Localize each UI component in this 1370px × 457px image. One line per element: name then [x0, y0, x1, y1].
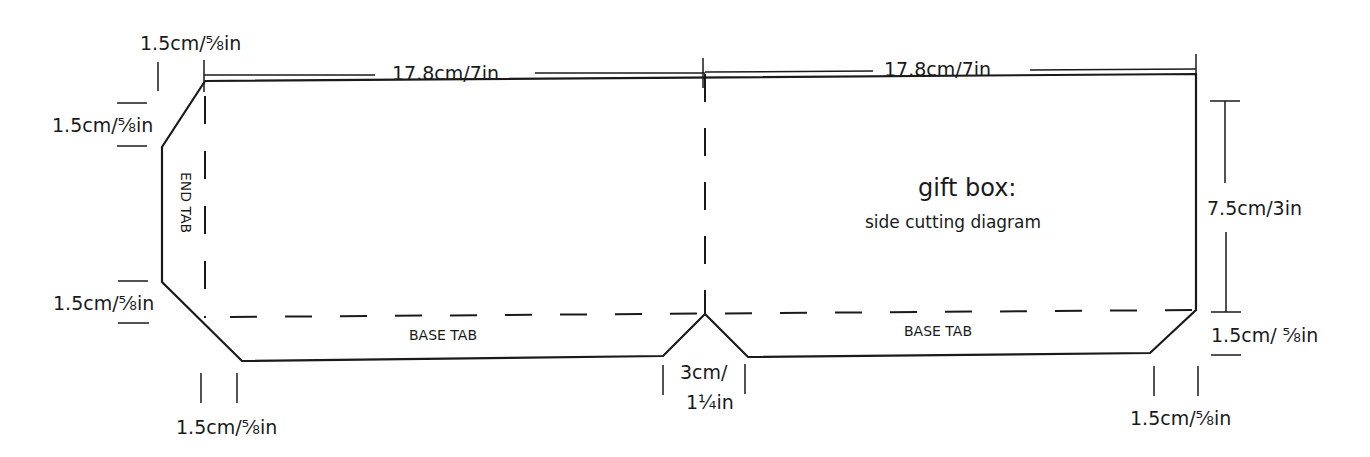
label-base-tab-right: BASE TAB	[904, 324, 972, 338]
diagram-title: gift box:	[918, 176, 1016, 200]
label-end-tab: END TAB	[179, 172, 193, 233]
label-bottom-right-chamfer-width: 1.5cm/⅝in	[1130, 409, 1231, 428]
dim-top-line-c	[705, 71, 873, 72]
label-left-upper-chamfer-height: 1.5cm/⅝in	[52, 116, 153, 135]
label-bottom-left-chamfer-width: 1.5cm/⅝in	[176, 418, 277, 437]
label-top-left-chamfer-width: 1.5cm/⅝in	[140, 34, 241, 53]
label-right-base-tab-height: 1.5cm/ ⅝in	[1211, 326, 1318, 345]
label-top-span-left: 17.8cm/7in	[392, 64, 499, 83]
dim-top-line-d	[1030, 69, 1196, 70]
label-top-span-right: 17.8cm/7in	[884, 60, 991, 79]
diagram-subtitle: side cutting diagram	[865, 214, 1041, 231]
label-notch-width-line1: 3cm/	[680, 363, 727, 382]
label-notch-width-line2: 1¼in	[686, 393, 734, 412]
label-base-tab-left: BASE TAB	[409, 328, 477, 342]
cutting-diagram-drawing	[0, 0, 1370, 457]
fold-line-base	[230, 310, 1196, 317]
label-left-lower-chamfer-height: 1.5cm/⅝in	[53, 294, 154, 313]
label-side-height: 7.5cm/3in	[1207, 199, 1302, 218]
